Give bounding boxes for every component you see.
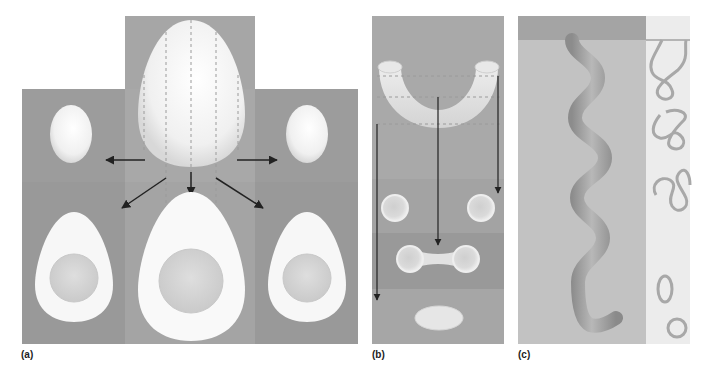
block-top: [518, 16, 646, 40]
panel-c-graphic: [0, 0, 719, 371]
figure: (a): [0, 0, 719, 371]
panel-c-label: (c): [518, 349, 530, 360]
